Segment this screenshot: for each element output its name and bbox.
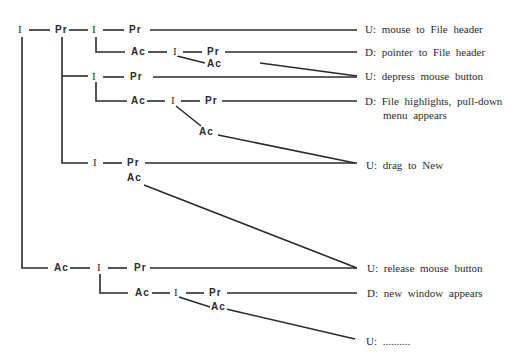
node-intention: I <box>96 262 102 272</box>
node-procedure: Pr <box>129 72 144 82</box>
node-intention-root: I <box>17 24 23 34</box>
node-action: Ac <box>130 47 147 57</box>
event-label-display: D: new window appears <box>367 287 483 300</box>
event-label-display: D: pointer to File header <box>365 46 485 59</box>
node-intention: I <box>173 287 179 297</box>
node-procedure: Pr <box>204 96 219 106</box>
node-procedure: Pr <box>208 288 223 298</box>
event-label-user: U: drag to New <box>366 159 443 172</box>
node-action: Ac <box>198 127 215 137</box>
node-action: Ac <box>206 59 223 69</box>
node-procedure: Pr <box>126 158 141 168</box>
event-label-display-continued: menu appears <box>383 109 447 122</box>
node-intention: I <box>91 24 97 34</box>
node-action: Ac <box>134 288 151 298</box>
node-procedure: Pr <box>54 25 69 35</box>
node-intention: I <box>91 71 97 81</box>
event-label-user: U: depress mouse button <box>365 70 483 83</box>
event-label-user: U: release mouse button <box>367 262 483 275</box>
tree-diagram: I Pr I Pr Ac I Pr Ac I Pr Ac I Pr Ac I P… <box>0 0 524 364</box>
node-action: Ac <box>126 173 143 183</box>
node-intention: I <box>92 157 98 167</box>
event-label-display: D: File highlights, pull-down <box>365 95 502 108</box>
node-intention: I <box>170 95 176 105</box>
event-label-user: U: .......... <box>366 335 410 348</box>
node-action: Ac <box>130 96 147 106</box>
node-procedure: Pr <box>206 47 221 57</box>
node-action: Ac <box>210 302 227 312</box>
node-intention: I <box>172 46 178 56</box>
node-procedure: Pr <box>128 25 143 35</box>
node-action: Ac <box>53 263 70 273</box>
node-procedure: Pr <box>133 263 148 273</box>
event-label-user: U: mouse to File header <box>365 23 483 36</box>
